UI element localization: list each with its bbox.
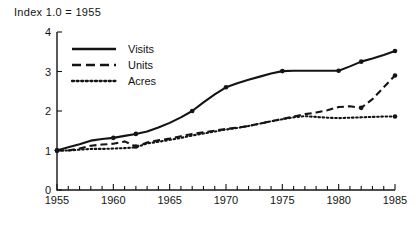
data-point-visits xyxy=(111,136,116,141)
x-axis-tick-label: 1955 xyxy=(45,194,69,206)
x-axis-tick-label: 1965 xyxy=(157,194,181,206)
legend-label-visits: Visits xyxy=(128,43,155,55)
series-line-acres xyxy=(57,116,395,150)
data-point-acres xyxy=(393,114,398,119)
x-axis-tick-label: 1975 xyxy=(270,194,294,206)
x-axis-tick-label: 1980 xyxy=(326,194,350,206)
data-point-visits xyxy=(134,132,139,137)
axes: 012341955196019651970197519801985 xyxy=(45,26,407,206)
line-chart: Index 1.0 = 1955 01234195519601965197019… xyxy=(0,0,417,233)
y-axis-tick-label: 3 xyxy=(45,66,51,78)
data-point-units xyxy=(393,73,398,78)
data-point-visits xyxy=(393,49,398,54)
x-axis-tick-label: 1985 xyxy=(383,194,407,206)
y-axis-tick-label: 1 xyxy=(45,145,51,157)
x-axis-tick-label: 1960 xyxy=(101,194,125,206)
y-axis-tick-label: 2 xyxy=(45,105,51,117)
data-point-visits xyxy=(280,69,285,74)
x-axis-tick-label: 1970 xyxy=(214,194,238,206)
chart-legend: VisitsUnitsAcres xyxy=(72,43,157,87)
data-point-visits xyxy=(224,85,229,90)
data-point-visits xyxy=(359,59,364,64)
legend-label-acres: Acres xyxy=(128,75,157,87)
data-point-visits xyxy=(336,68,341,73)
legend-label-units: Units xyxy=(128,59,154,71)
data-point-units xyxy=(359,106,364,111)
data-point-acres xyxy=(55,148,60,153)
y-axis-tick-label: 4 xyxy=(45,26,51,38)
chart-plot-area: 012341955196019651970197519801985 Visits… xyxy=(0,0,417,233)
data-point-visits xyxy=(190,109,195,114)
